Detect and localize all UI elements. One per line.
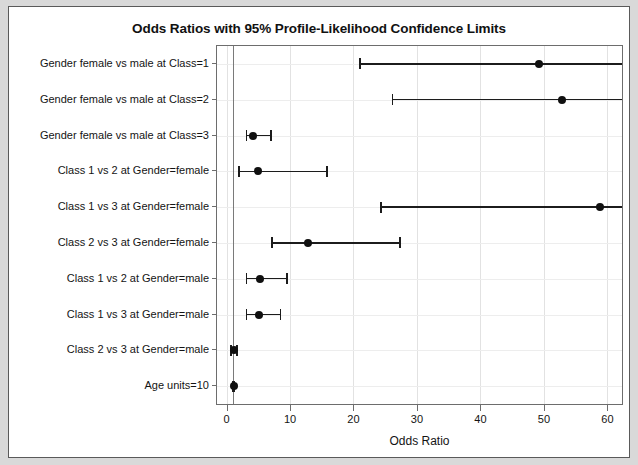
odds-ratio-point bbox=[230, 382, 238, 390]
confidence-interval-line bbox=[392, 99, 623, 101]
confidence-interval-lower-cap bbox=[246, 309, 248, 320]
y-axis-category-label: Gender female vs male at Class=1 bbox=[40, 57, 209, 69]
y-axis-category-label: Class 1 vs 3 at Gender=female bbox=[58, 200, 209, 212]
odds-ratio-point bbox=[249, 132, 257, 140]
y-axis-category-label: Class 1 vs 2 at Gender=female bbox=[58, 164, 209, 176]
odds-ratio-point bbox=[255, 311, 263, 319]
x-axis-tick-labels: 0102030405060 bbox=[216, 413, 624, 428]
odds-ratio-point bbox=[254, 167, 262, 175]
y-gridline bbox=[217, 350, 622, 351]
confidence-interval-line bbox=[238, 171, 328, 173]
confidence-interval-line bbox=[380, 206, 623, 208]
x-axis-tick bbox=[544, 405, 545, 411]
confidence-interval-lower-cap bbox=[392, 94, 394, 105]
confidence-interval-lower-cap bbox=[271, 237, 273, 248]
confidence-interval-lower-cap bbox=[380, 202, 382, 213]
confidence-interval-line bbox=[271, 242, 401, 244]
x-axis-tick-label: 0 bbox=[223, 413, 229, 425]
x-axis-tick bbox=[227, 405, 228, 411]
y-axis-category-label: Class 1 vs 3 at Gender=male bbox=[67, 308, 209, 320]
figure-panel: Odds Ratios with 95% Profile-Likelihood … bbox=[8, 6, 630, 458]
confidence-interval-upper-cap bbox=[399, 237, 401, 248]
plot-area bbox=[216, 45, 623, 405]
x-axis-tick bbox=[290, 405, 291, 411]
y-axis-category-label: Age units=10 bbox=[144, 379, 209, 391]
confidence-interval-lower-cap bbox=[238, 166, 240, 177]
confidence-interval-upper-cap bbox=[326, 166, 328, 177]
x-axis-tick bbox=[353, 405, 354, 411]
x-axis-title: Odds Ratio bbox=[216, 434, 623, 448]
odds-ratio-point bbox=[558, 96, 566, 104]
x-axis-tick bbox=[607, 405, 608, 411]
x-axis-tick-label: 60 bbox=[601, 413, 613, 425]
x-axis-tick-label: 50 bbox=[538, 413, 550, 425]
chart-title: Odds Ratios with 95% Profile-Likelihood … bbox=[9, 21, 629, 36]
x-axis-tick-label: 30 bbox=[411, 413, 423, 425]
odds-ratio-point bbox=[596, 203, 604, 211]
confidence-interval-upper-cap bbox=[280, 309, 282, 320]
y-axis-category-label: Gender female vs male at Class=2 bbox=[40, 93, 209, 105]
y-axis-category-label: Class 2 vs 3 at Gender=male bbox=[67, 343, 209, 355]
confidence-interval-line bbox=[359, 63, 623, 65]
x-axis-tick-label: 10 bbox=[284, 413, 296, 425]
confidence-interval-upper-cap bbox=[286, 273, 288, 284]
y-axis-category-label: Class 2 vs 3 at Gender=female bbox=[58, 236, 209, 248]
x-axis-tick bbox=[480, 405, 481, 411]
confidence-interval-lower-cap bbox=[246, 273, 248, 284]
confidence-interval-lower-cap bbox=[359, 58, 361, 69]
odds-ratio-point bbox=[304, 239, 312, 247]
odds-ratio-point bbox=[256, 275, 264, 283]
x-axis-tick-label: 20 bbox=[347, 413, 359, 425]
x-axis-tick bbox=[417, 405, 418, 411]
x-axis-tick-label: 40 bbox=[474, 413, 486, 425]
x-axis-ticks bbox=[216, 405, 624, 412]
confidence-interval-line bbox=[246, 278, 289, 280]
y-gridline bbox=[217, 386, 622, 387]
confidence-interval-upper-cap bbox=[270, 130, 272, 141]
y-gridline bbox=[217, 136, 622, 137]
y-axis-category-label: Gender female vs male at Class=3 bbox=[40, 129, 209, 141]
confidence-interval-line bbox=[246, 314, 282, 316]
confidence-interval-lower-cap bbox=[246, 130, 248, 141]
odds-ratio-point bbox=[535, 60, 543, 68]
y-axis-labels: Gender female vs male at Class=1Gender f… bbox=[9, 45, 209, 405]
y-axis-category-label: Class 1 vs 2 at Gender=male bbox=[67, 272, 209, 284]
